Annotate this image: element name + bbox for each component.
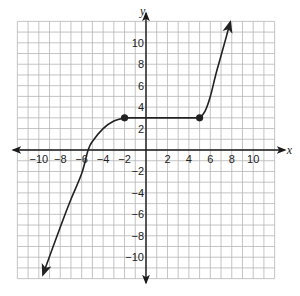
y-axis-label: y xyxy=(139,4,146,18)
curve-right-piece xyxy=(200,22,231,117)
y-tick-label: 4 xyxy=(138,101,144,113)
y-tick-label: −4 xyxy=(131,187,144,199)
x-tick-label: −10 xyxy=(29,153,48,165)
y-tick-label: 8 xyxy=(138,58,144,70)
y-tick-label: 6 xyxy=(138,80,144,92)
x-tick-label: −2 xyxy=(118,153,131,165)
y-tick-label: −10 xyxy=(125,251,144,263)
x-tick-label: −4 xyxy=(97,153,110,165)
x-tick-label: 10 xyxy=(247,153,259,165)
x-tick-label: −8 xyxy=(54,153,67,165)
x-axis-label: x xyxy=(286,143,293,157)
y-tick-label: 2 xyxy=(138,123,144,135)
x-tick-label: 4 xyxy=(186,153,192,165)
y-tick-label: −6 xyxy=(131,208,144,220)
closed-point-marker xyxy=(196,114,203,121)
y-tick-label: −2 xyxy=(131,165,144,177)
curve-left-piece xyxy=(43,118,124,275)
x-tick-label: 2 xyxy=(164,153,170,165)
closed-point-marker xyxy=(121,114,128,121)
y-tick-label: −8 xyxy=(131,230,144,242)
y-tick-label: 10 xyxy=(132,37,144,49)
x-tick-label: 6 xyxy=(207,153,213,165)
graph: xy−10−8−6−4−2246810−10−8−6−4−2246810 xyxy=(0,0,300,296)
x-tick-label: 8 xyxy=(229,153,235,165)
